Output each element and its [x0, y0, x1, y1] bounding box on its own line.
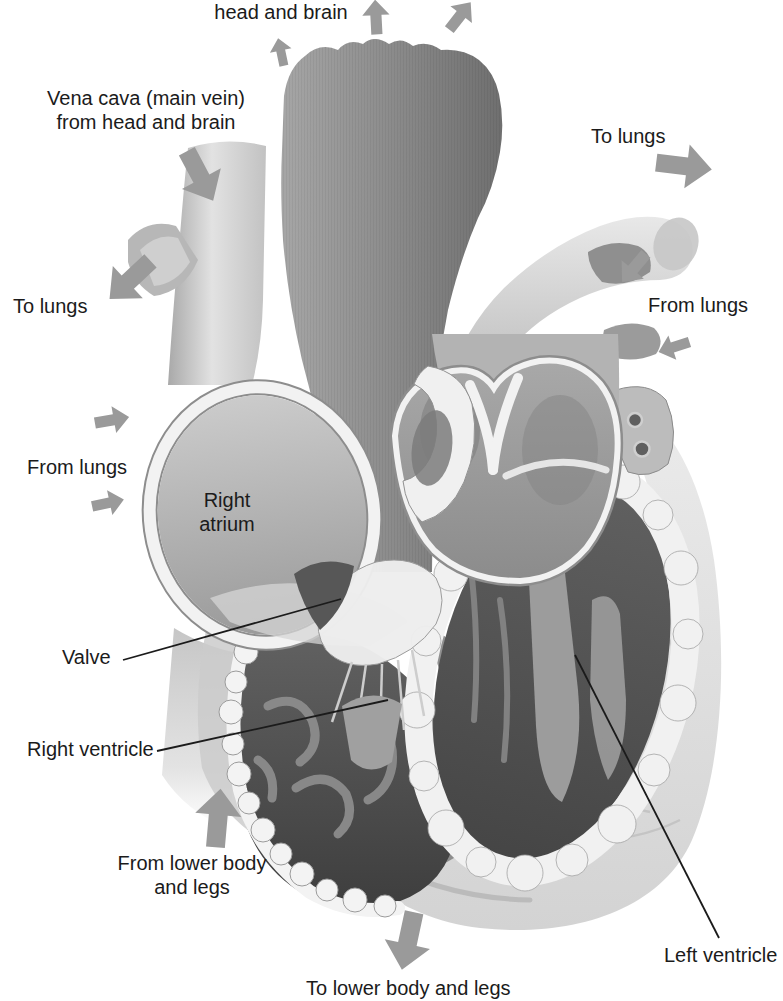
label-valve: Valve: [62, 645, 111, 669]
label-head-and-brain: head and brain: [214, 0, 347, 24]
label-from-lungs-right: From lungs: [648, 293, 748, 317]
label-right-atrium: Right atrium: [199, 488, 255, 536]
label-from-lower-body-line2: and legs: [118, 875, 267, 899]
label-from-lower-body: From lower body and legs: [118, 851, 267, 899]
label-vena-cava-line1: Vena cava (main vein): [47, 86, 245, 110]
flow-arrow-from-lungs-left-upper: [93, 404, 132, 437]
label-from-lower-body-line1: From lower body: [118, 851, 267, 875]
heart-diagram-page: head and brain Vena cava (main vein) fro…: [0, 0, 783, 1001]
label-vena-cava-line2: from head and brain: [47, 110, 245, 134]
label-to-lower-body: To lower body and legs: [306, 976, 511, 1000]
flow-arrow-to-lungs-right: [654, 141, 715, 191]
label-to-lungs-left: To lungs: [13, 294, 88, 318]
flow-arrow-from-lungs-right-lower: [655, 330, 694, 364]
flow-arrow-from-lungs-left-lower: [89, 487, 126, 519]
label-left-ventricle: Left ventricle: [664, 943, 777, 967]
flow-arrow-to-lower-body: [379, 907, 436, 974]
label-vena-cava: Vena cava (main vein) from head and brai…: [47, 86, 245, 134]
label-right-atrium-line1: Right: [199, 488, 255, 512]
flow-arrow-to-head-mid: [361, 0, 390, 35]
label-from-lungs-left: From lungs: [27, 455, 127, 479]
flow-arrow-to-head-left: [267, 36, 294, 68]
label-right-atrium-line2: atrium: [199, 512, 255, 536]
flow-arrow-to-head-right: [439, 0, 482, 38]
label-to-lungs-right: To lungs: [591, 124, 666, 148]
label-right-ventricle: Right ventricle: [27, 737, 154, 761]
